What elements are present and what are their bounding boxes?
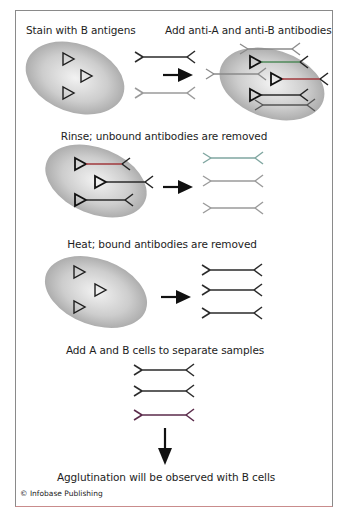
antibody-icon xyxy=(202,264,262,276)
panel-3-cell xyxy=(35,243,157,341)
arrow-right-icon xyxy=(163,68,193,82)
panel-1-bound-cell xyxy=(206,35,334,133)
step-3-label: Rinse; unbound antibodies are removed xyxy=(61,130,268,142)
step-6-label: Agglutination will be observed with B ce… xyxy=(57,471,275,483)
antibody-icon xyxy=(135,87,195,99)
antibody-icon xyxy=(203,202,263,214)
antibody-icon xyxy=(134,364,194,376)
step-1-label: Stain with B antigens xyxy=(26,24,136,36)
panel-3-free-antibodies xyxy=(202,264,262,319)
antibody-icon xyxy=(203,175,263,187)
antibody-icon xyxy=(135,51,195,63)
panel-1-cell xyxy=(15,29,134,128)
antibody-icon xyxy=(134,385,194,397)
copyright-notice: © Infobase Publishing xyxy=(20,489,103,498)
arrow-down-icon xyxy=(158,428,172,465)
antibody-icon xyxy=(134,409,194,421)
step-5-label: Add A and B cells to separate samples xyxy=(66,344,264,356)
arrow-right-icon xyxy=(161,290,191,304)
antibody-icon xyxy=(202,284,262,296)
panel-4-antibodies xyxy=(134,364,194,421)
panel-2-free-antibodies xyxy=(203,152,263,214)
step-2-label: Add anti-A and anti-B antibodies xyxy=(165,24,332,36)
agglutination-diagram xyxy=(0,0,343,526)
antibody-icon xyxy=(202,307,262,319)
antibody-icon xyxy=(203,152,263,164)
arrow-right-icon xyxy=(163,180,193,194)
step-4-label: Heat; bound antibodies are removed xyxy=(67,238,257,250)
panel-2-cell xyxy=(34,131,157,232)
